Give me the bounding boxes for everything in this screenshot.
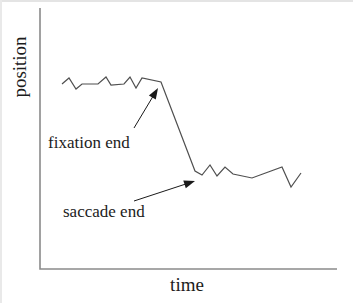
annotation-label-fixation-end: fixation end (48, 133, 130, 152)
eye-movement-position-time-figure: position time fixation end saccade end (0, 0, 353, 303)
y-axis-label: position (9, 36, 30, 98)
plot-svg: position time fixation end saccade end (0, 0, 353, 303)
annotation-label-saccade-end: saccade end (63, 202, 145, 221)
x-axis-label: time (170, 274, 204, 295)
